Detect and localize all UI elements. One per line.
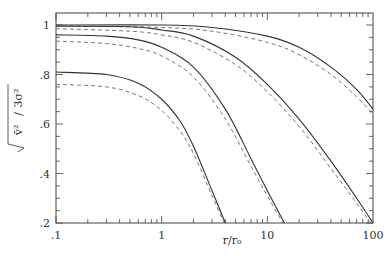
tick-labels: .1110100.2.4.6.81 xyxy=(40,19,384,242)
curve-solid-2 xyxy=(56,26,373,223)
y-axis-label-numerator: v̄² xyxy=(12,125,25,137)
y-axis-label-denominator: 3σ² xyxy=(12,89,25,108)
x-tick-label: 10 xyxy=(260,229,274,242)
y-tick-label: 1 xyxy=(43,19,50,32)
curve-dashed-3 xyxy=(56,41,283,223)
x-tick-label: 1 xyxy=(158,229,165,242)
y-tick-label: .8 xyxy=(40,69,51,82)
x-tick-label: .1 xyxy=(51,229,62,242)
curve-solid-4 xyxy=(56,72,225,223)
x-axis-label: r/r₀ xyxy=(223,234,242,247)
y-tick-label: .6 xyxy=(40,118,51,131)
axis-ticks xyxy=(56,13,373,223)
plot-border xyxy=(56,13,373,223)
plot-frame xyxy=(56,13,373,223)
curve-dashed-1 xyxy=(56,26,373,114)
data-curves xyxy=(56,25,373,223)
y-tick-label: .2 xyxy=(40,217,51,230)
y-tick-label: .4 xyxy=(40,168,51,181)
curve-solid-3 xyxy=(56,35,284,223)
curve-solid-1 xyxy=(56,25,373,109)
y-axis-label-slash: / xyxy=(12,112,25,116)
curve-dashed-4 xyxy=(56,84,224,223)
x-tick-label: 100 xyxy=(363,229,384,242)
chart: .1110100.2.4.6.81 r/r₀ v̄² / 3σ² xyxy=(0,0,390,256)
y-axis-label: v̄² / 3σ² xyxy=(8,84,25,152)
